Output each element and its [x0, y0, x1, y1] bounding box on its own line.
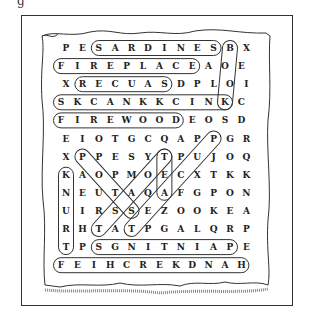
- grid-letter[interactable]: L: [190, 222, 204, 236]
- grid-letter[interactable]: B: [223, 41, 237, 55]
- grid-letter[interactable]: I: [239, 77, 253, 91]
- grid-letter[interactable]: Z: [157, 204, 171, 218]
- grid-letter[interactable]: A: [218, 258, 232, 272]
- grid-letter[interactable]: T: [92, 222, 106, 236]
- grid-letter[interactable]: S: [92, 41, 106, 55]
- grid-letter[interactable]: K: [59, 168, 73, 182]
- grid-letter[interactable]: P: [120, 59, 134, 73]
- grid-letter[interactable]: P: [59, 41, 73, 55]
- grid-letter[interactable]: K: [223, 168, 237, 182]
- grid-letter[interactable]: A: [174, 222, 188, 236]
- grid-letter[interactable]: I: [75, 132, 89, 146]
- grid-letter[interactable]: C: [108, 77, 122, 91]
- grid-letter[interactable]: P: [190, 77, 204, 91]
- grid-letter[interactable]: O: [218, 59, 232, 73]
- grid-letter[interactable]: I: [70, 113, 84, 127]
- grid-letter[interactable]: E: [152, 258, 166, 272]
- grid-letter[interactable]: C: [169, 95, 183, 109]
- grid-letter[interactable]: Q: [141, 186, 155, 200]
- grid-letter[interactable]: S: [92, 240, 106, 254]
- grid-letter[interactable]: H: [234, 258, 248, 272]
- grid-letter[interactable]: T: [157, 150, 171, 164]
- grid-letter[interactable]: A: [75, 168, 89, 182]
- grid-letter[interactable]: P: [141, 222, 155, 236]
- grid-letter[interactable]: T: [125, 222, 139, 236]
- grid-letter[interactable]: O: [141, 168, 155, 182]
- grid-letter[interactable]: A: [152, 59, 166, 73]
- grid-letter[interactable]: I: [190, 240, 204, 254]
- grid-letter[interactable]: X: [190, 168, 204, 182]
- grid-letter[interactable]: N: [202, 95, 216, 109]
- grid-letter[interactable]: A: [108, 41, 122, 55]
- grid-letter[interactable]: N: [174, 41, 188, 55]
- grid-letter[interactable]: I: [75, 204, 89, 218]
- grid-letter[interactable]: O: [190, 204, 204, 218]
- grid-letter[interactable]: P: [239, 222, 253, 236]
- grid-letter[interactable]: H: [103, 258, 117, 272]
- grid-letter[interactable]: G: [190, 186, 204, 200]
- grid-letter[interactable]: A: [125, 186, 139, 200]
- grid-letter[interactable]: H: [75, 222, 89, 236]
- grid-letter[interactable]: Q: [207, 222, 221, 236]
- grid-letter[interactable]: T: [59, 240, 73, 254]
- grid-letter[interactable]: R: [92, 204, 106, 218]
- grid-letter[interactable]: K: [152, 95, 166, 109]
- grid-letter[interactable]: U: [190, 150, 204, 164]
- grid-letter[interactable]: C: [169, 59, 183, 73]
- grid-letter[interactable]: F: [54, 258, 68, 272]
- grid-letter[interactable]: P: [207, 186, 221, 200]
- grid-letter[interactable]: S: [108, 204, 122, 218]
- grid-letter[interactable]: X: [59, 150, 73, 164]
- grid-letter[interactable]: E: [157, 168, 171, 182]
- grid-letter[interactable]: P: [108, 168, 122, 182]
- grid-letter[interactable]: O: [223, 77, 237, 91]
- grid-letter[interactable]: D: [169, 113, 183, 127]
- grid-letter[interactable]: T: [108, 186, 122, 200]
- grid-letter[interactable]: U: [59, 204, 73, 218]
- grid-letter[interactable]: K: [207, 204, 221, 218]
- grid-letter[interactable]: O: [202, 113, 216, 127]
- grid-letter[interactable]: I: [70, 59, 84, 73]
- grid-letter[interactable]: U: [92, 186, 106, 200]
- grid-letter[interactable]: A: [239, 204, 253, 218]
- grid-letter[interactable]: L: [207, 77, 221, 91]
- grid-letter[interactable]: E: [92, 77, 106, 91]
- grid-letter[interactable]: A: [108, 222, 122, 236]
- grid-letter[interactable]: T: [207, 168, 221, 182]
- grid-letter[interactable]: P: [174, 150, 188, 164]
- grid-letter[interactable]: N: [59, 186, 73, 200]
- grid-letter[interactable]: A: [157, 186, 171, 200]
- grid-letter[interactable]: K: [218, 95, 232, 109]
- grid-letter[interactable]: P: [75, 150, 89, 164]
- grid-letter[interactable]: Q: [239, 150, 253, 164]
- grid-letter[interactable]: R: [75, 77, 89, 91]
- grid-letter[interactable]: S: [54, 95, 68, 109]
- grid-letter[interactable]: R: [59, 222, 73, 236]
- grid-letter[interactable]: Y: [141, 150, 155, 164]
- grid-letter[interactable]: C: [234, 95, 248, 109]
- grid-letter[interactable]: A: [202, 59, 216, 73]
- grid-letter[interactable]: R: [223, 222, 237, 236]
- grid-letter[interactable]: S: [125, 204, 139, 218]
- grid-letter[interactable]: F: [54, 59, 68, 73]
- grid-letter[interactable]: E: [75, 41, 89, 55]
- grid-letter[interactable]: T: [157, 240, 171, 254]
- grid-letter[interactable]: W: [120, 113, 134, 127]
- grid-letter[interactable]: E: [234, 59, 248, 73]
- grid-letter[interactable]: S: [218, 113, 232, 127]
- grid-letter[interactable]: D: [174, 77, 188, 91]
- grid-letter[interactable]: R: [136, 258, 150, 272]
- grid-letter[interactable]: E: [103, 59, 117, 73]
- grid-letter[interactable]: E: [59, 132, 73, 146]
- grid-letter[interactable]: P: [223, 240, 237, 254]
- grid-letter[interactable]: G: [157, 222, 171, 236]
- grid-letter[interactable]: R: [87, 59, 101, 73]
- grid-letter[interactable]: O: [92, 132, 106, 146]
- grid-letter[interactable]: M: [125, 168, 139, 182]
- grid-letter[interactable]: S: [125, 150, 139, 164]
- grid-letter[interactable]: Q: [157, 132, 171, 146]
- grid-letter[interactable]: I: [185, 95, 199, 109]
- grid-letter[interactable]: E: [185, 113, 199, 127]
- grid-letter[interactable]: E: [223, 204, 237, 218]
- grid-letter[interactable]: U: [125, 77, 139, 91]
